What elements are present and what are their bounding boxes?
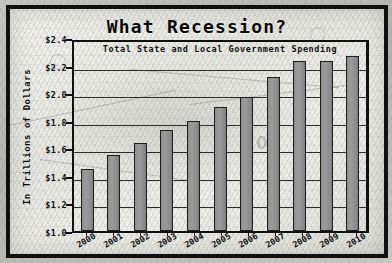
bar-2010[interactable] [346, 56, 359, 231]
bar-2007[interactable] [267, 77, 280, 231]
bar-cell [339, 42, 366, 231]
bar-cell [154, 42, 181, 231]
x-axis-cell: 2000 [72, 233, 99, 258]
bar-2004[interactable] [187, 121, 200, 231]
x-axis-tick-label-2002: 2002 [128, 231, 151, 250]
bar-2002[interactable] [134, 143, 147, 231]
bar-2001[interactable] [107, 155, 120, 231]
bar-cell [260, 42, 287, 231]
bar-cell [127, 42, 154, 231]
bar-series [74, 42, 366, 231]
x-axis-cell: 2006 [234, 233, 261, 258]
y-axis-tick-label: $2.2 [45, 63, 67, 73]
x-axis-cell: 2008 [288, 233, 315, 258]
x-axis-tick-label-2001: 2001 [101, 231, 124, 250]
bar-2008[interactable] [293, 61, 306, 231]
x-axis-cell: 2004 [180, 233, 207, 258]
bar-2003[interactable] [160, 130, 173, 231]
chart-frame: 07 What Recession? In Trillions of Dolla… [6, 5, 388, 258]
bar-cell [286, 42, 313, 231]
x-axis-tick-label-2003: 2003 [155, 231, 178, 250]
y-axis-tick-label: $1.4 [45, 173, 67, 183]
x-axis-tick-label-2010: 2010 [344, 231, 367, 250]
x-axis-cell: 2001 [99, 233, 126, 258]
y-axis-tick-label: $2.0 [45, 90, 67, 100]
bar-2005[interactable] [214, 107, 227, 231]
y-axis-tick-label: $1.6 [45, 145, 67, 155]
bar-cell [313, 42, 340, 231]
y-axis-tick-label: $1.8 [45, 118, 67, 128]
y-axis: $1.0$1.2$1.4$1.6$1.8$2.0$2.2$2.4 [10, 40, 72, 233]
bar-cell [180, 42, 207, 231]
x-axis: 2000200120022003200420052006200720082009… [72, 233, 369, 258]
x-axis-tick-label-2004: 2004 [182, 231, 205, 250]
x-axis-cell: 2009 [315, 233, 342, 258]
x-axis-tick-label-2007: 2007 [263, 231, 286, 250]
x-axis-cell: 2010 [342, 233, 369, 258]
y-axis-tick-label: $1.2 [45, 200, 67, 210]
y-axis-tick-label: $2.4 [45, 35, 67, 45]
x-axis-tick-label-2000: 2000 [74, 231, 97, 250]
chart-screenshot: 07 What Recession? In Trillions of Dolla… [0, 0, 392, 263]
x-axis-cell: 2007 [261, 233, 288, 258]
bar-2006[interactable] [240, 97, 253, 231]
bar-2009[interactable] [320, 61, 333, 231]
x-axis-tick-label-2005: 2005 [209, 231, 232, 250]
x-axis-cell: 2005 [207, 233, 234, 258]
y-axis-tick-label: $1.0 [45, 228, 67, 238]
bar-cell [207, 42, 234, 231]
x-axis-tick-label-2006: 2006 [236, 231, 259, 250]
bar-cell [233, 42, 260, 231]
bar-cell [74, 42, 101, 231]
x-axis-tick-label-2008: 2008 [290, 231, 313, 250]
x-axis-tick-label-2009: 2009 [317, 231, 340, 250]
chart-title: What Recession? [10, 16, 384, 37]
x-axis-cell: 2003 [153, 233, 180, 258]
bar-2000[interactable] [81, 169, 94, 231]
plot-area: Total State and Local Government Spendin… [72, 40, 369, 233]
x-axis-cell: 2002 [126, 233, 153, 258]
bar-cell [101, 42, 128, 231]
